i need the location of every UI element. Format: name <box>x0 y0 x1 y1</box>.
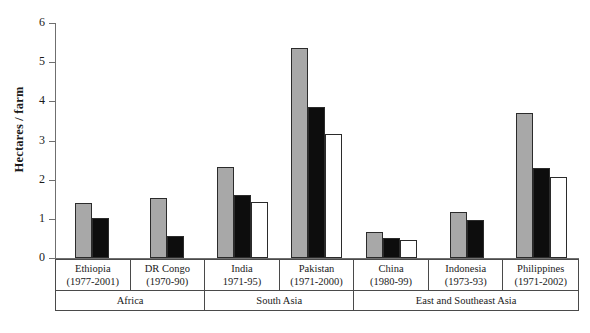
country-label-cell: Pakistan(1971-2000) <box>280 260 355 290</box>
bar <box>550 177 567 258</box>
country-period: (1980-99) <box>370 275 412 288</box>
y-axis-tick-label: 1 <box>39 211 45 226</box>
region-label-cell: South Asia <box>205 291 354 310</box>
bar <box>450 212 467 258</box>
bar <box>150 198 167 258</box>
category-label-table: Ethiopia(1977-2001)DR Congo(1970-90)Indi… <box>55 259 579 311</box>
bar <box>325 134 342 258</box>
country-label-cell: China(1980-99) <box>354 260 429 290</box>
y-axis-tick-label: 6 <box>39 15 45 30</box>
bar-group <box>130 23 205 258</box>
bar <box>400 240 417 258</box>
country-label-cell: DR Congo(1970-90) <box>131 260 206 290</box>
country-name: China <box>379 262 404 275</box>
bar <box>383 238 400 258</box>
bar <box>366 232 383 258</box>
bar <box>533 168 550 258</box>
country-period: (1971-2002) <box>515 275 568 288</box>
bar-group <box>280 23 355 258</box>
country-label-row: Ethiopia(1977-2001)DR Congo(1970-90)Indi… <box>56 260 578 291</box>
bar <box>75 203 92 258</box>
country-period: (1973-93) <box>445 275 487 288</box>
bar <box>516 113 533 258</box>
bar <box>217 167 234 258</box>
bar <box>467 220 484 258</box>
bar <box>291 48 308 258</box>
y-axis-title: Hectares / farm <box>8 0 30 258</box>
country-period: 1971-95) <box>223 275 262 288</box>
region-label-cell: East and Southeast Asia <box>354 291 578 310</box>
bar <box>234 195 251 258</box>
country-name: Philippines <box>517 262 564 275</box>
bar <box>251 202 268 258</box>
y-axis-tick-label: 2 <box>39 172 45 187</box>
country-label-cell: Ethiopia(1977-2001) <box>56 260 131 290</box>
bar-group <box>205 23 280 258</box>
y-axis-tick-label: 4 <box>39 93 45 108</box>
bar <box>308 107 325 258</box>
bar-group <box>429 23 504 258</box>
y-axis-tick-label: 0 <box>39 250 45 265</box>
country-label-cell: Indonesia(1973-93) <box>429 260 504 290</box>
country-name: DR Congo <box>145 262 190 275</box>
bar-chart: Hectares / farm 0123456 Ethiopia(1977-20… <box>0 0 590 333</box>
country-period: (1970-90) <box>146 275 188 288</box>
bar-group <box>354 23 429 258</box>
region-label-row: AfricaSouth AsiaEast and Southeast Asia <box>56 291 578 310</box>
y-axis-title-text: Hectares / farm <box>12 86 27 172</box>
bar <box>167 236 184 258</box>
plot-area: 0123456 <box>55 23 579 258</box>
country-name: Ethiopia <box>75 262 111 275</box>
y-axis-tick-label: 5 <box>39 54 45 69</box>
country-name: Indonesia <box>445 262 486 275</box>
y-axis-tick-label: 3 <box>39 133 45 148</box>
country-period: (1971-2000) <box>290 275 343 288</box>
country-label-cell: Philippines(1971-2002) <box>503 260 578 290</box>
country-name: India <box>231 262 253 275</box>
bar-group <box>55 23 130 258</box>
country-label-cell: India1971-95) <box>205 260 280 290</box>
bar <box>92 218 109 258</box>
bars-layer <box>55 23 579 258</box>
country-name: Pakistan <box>299 262 335 275</box>
region-label-cell: Africa <box>56 291 205 310</box>
country-period: (1977-2001) <box>67 275 120 288</box>
bar-group <box>504 23 579 258</box>
